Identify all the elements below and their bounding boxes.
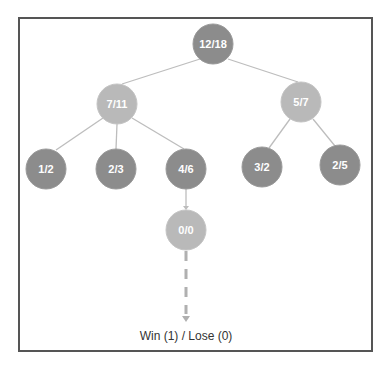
node-1-2: 1/2 — [26, 149, 66, 189]
edge-n2-n21 — [269, 119, 290, 148]
node-4-6: 4/6 — [166, 149, 206, 189]
node-label: 2/3 — [108, 163, 123, 175]
node-2-5: 2/5 — [320, 145, 360, 185]
node-0-0: 0/0 — [166, 210, 206, 250]
node-label: 1/2 — [38, 163, 53, 175]
edge-root-n2 — [228, 59, 298, 82]
edge-n2-n22 — [313, 119, 335, 146]
simulation-arrowhead-icon — [182, 316, 190, 322]
node-5-7: 5/7 — [281, 82, 321, 122]
node-2-3: 2/3 — [96, 149, 136, 189]
node-label: 5/7 — [293, 96, 308, 108]
edge-n1-n11 — [56, 118, 103, 150]
node-label: 3/2 — [254, 161, 269, 173]
arrowhead-n13-n131 — [183, 206, 189, 210]
edge-n1-n12 — [116, 124, 117, 149]
node-label: 4/6 — [178, 163, 193, 175]
mcts-tree-diagram: 12/18 7/11 5/7 1/2 2/3 4/6 3/2 2/5 0/0 — [0, 0, 386, 369]
edge-root-n1 — [122, 59, 200, 84]
outcome-label: Win (1) / Lose (0) — [0, 329, 372, 343]
node-label: 2/5 — [332, 159, 347, 171]
node-label: 12/18 — [199, 38, 227, 50]
node-root: 12/18 — [193, 24, 233, 64]
node-label: 7/11 — [107, 98, 128, 110]
node-label: 0/0 — [178, 224, 193, 236]
node-7-11: 7/11 — [97, 84, 137, 124]
node-3-2: 3/2 — [242, 147, 282, 187]
edge-n1-n13 — [132, 118, 184, 149]
